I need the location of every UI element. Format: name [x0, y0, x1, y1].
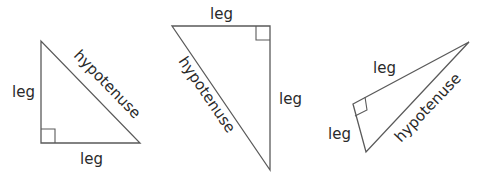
triangle-2: leg leg hypotenuse — [172, 5, 302, 170]
triangle-2-top-leg-label: leg — [210, 5, 233, 23]
triangle-1-hypotenuse-label: hypotenuse — [70, 46, 144, 122]
triangle-3: leg leg hypotenuse — [328, 42, 469, 152]
triangle-1-horizontal-leg-label: leg — [80, 150, 103, 168]
right-triangles-diagram: leg leg hypotenuse leg leg hypotenuse le… — [0, 0, 478, 175]
triangle-3-short-leg-label: leg — [328, 125, 351, 143]
triangle-1: leg leg hypotenuse — [12, 41, 145, 168]
triangle-3-hypotenuse-label: hypotenuse — [391, 69, 465, 145]
triangle-2-vertical-leg-label: leg — [279, 90, 302, 108]
triangle-3-long-leg-label: leg — [373, 59, 396, 77]
triangle-2-hypotenuse-label: hypotenuse — [175, 53, 239, 136]
right-angle-marker — [256, 26, 270, 40]
right-angle-marker — [41, 129, 55, 143]
triangle-1-vertical-leg-label: leg — [12, 83, 35, 101]
